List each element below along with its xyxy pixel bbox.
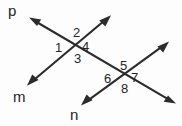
line-m [27, 15, 111, 86]
geometry-figure: p m n 1 2 3 4 5 6 7 8 [0, 0, 182, 126]
angle-label-4: 4 [82, 40, 89, 53]
line-label-p: p [8, 3, 16, 18]
angle-label-7: 7 [131, 71, 138, 84]
angle-label-3: 3 [74, 52, 81, 65]
angle-label-1: 1 [55, 41, 62, 54]
line-n-arrowhead-start [81, 94, 93, 105]
line-m-segment [32, 19, 106, 81]
figure-canvas [0, 0, 182, 126]
angle-label-5: 5 [120, 59, 127, 72]
angle-label-2: 2 [73, 26, 80, 39]
line-label-n: n [70, 107, 78, 122]
line-label-m: m [13, 89, 26, 104]
angle-label-8: 8 [121, 82, 128, 95]
angle-label-6: 6 [104, 72, 111, 85]
line-n-arrowhead-end [157, 41, 169, 52]
